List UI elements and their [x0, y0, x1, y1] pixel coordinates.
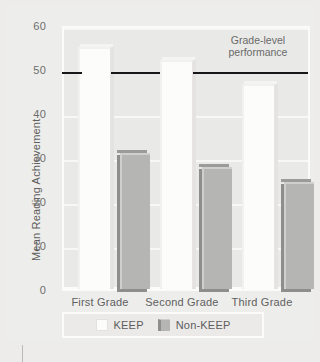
- bar-foot: [281, 289, 311, 292]
- bar-side: [193, 60, 196, 289]
- bar-keep-first-grade[interactable]: [78, 47, 111, 289]
- reference-line-segment-second: [193, 72, 308, 74]
- y-tick-30: 30: [6, 152, 46, 164]
- bar-side: [111, 47, 114, 289]
- legend-label-non-keep: Non-KEEP: [176, 319, 231, 331]
- page-corner-tick: [22, 345, 23, 362]
- legend-item-keep[interactable]: KEEP: [96, 319, 144, 331]
- plot-area: [62, 26, 310, 291]
- y-tick-40: 40: [6, 108, 46, 120]
- bar-keep-third-grade[interactable]: [242, 84, 275, 289]
- y-tick-10: 10: [6, 240, 46, 252]
- reference-line-segment-first: [111, 72, 160, 74]
- bar-side: [275, 84, 278, 289]
- legend-item-non-keep[interactable]: Non-KEEP: [158, 319, 231, 331]
- bar-front: [120, 153, 150, 289]
- y-tick-0: 0: [6, 284, 46, 296]
- chart-panel: Mean Reading Achievement 60 50 40 30 20 …: [6, 6, 314, 342]
- y-tick-60: 60: [6, 20, 46, 32]
- reference-line-annotation-line1: Grade-level: [206, 34, 310, 46]
- bar-front: [284, 182, 314, 289]
- y-tick-20: 20: [6, 196, 46, 208]
- bars-layer: [64, 28, 308, 289]
- bar-front: [202, 167, 232, 289]
- reference-line-annotation-line2: performance: [206, 46, 310, 58]
- bar-non-keep-first-grade[interactable]: [120, 153, 150, 289]
- x-tick-first-grade: First Grade: [71, 296, 128, 308]
- reference-line-annotation: Grade-level performance: [206, 34, 310, 58]
- bar-front: [160, 60, 193, 289]
- bar-front: [242, 84, 275, 289]
- reference-line-segment-left: [62, 72, 82, 74]
- bar-non-keep-third-grade[interactable]: [284, 182, 314, 289]
- bar-foot: [199, 289, 229, 292]
- chart-legend: KEEP Non-KEEP: [62, 312, 264, 338]
- x-tick-second-grade: Second Grade: [145, 296, 218, 308]
- non-keep-swatch-icon: [158, 319, 170, 331]
- keep-swatch-icon: [96, 319, 108, 331]
- bar-front: [78, 47, 111, 289]
- bar-non-keep-second-grade[interactable]: [202, 167, 232, 289]
- y-tick-50: 50: [6, 64, 46, 76]
- x-tick-third-grade: Third Grade: [232, 296, 293, 308]
- bar-keep-second-grade[interactable]: [160, 60, 193, 289]
- chart-figure: Mean Reading Achievement 60 50 40 30 20 …: [0, 0, 320, 362]
- legend-label-keep: KEEP: [114, 319, 144, 331]
- bar-foot: [117, 289, 147, 292]
